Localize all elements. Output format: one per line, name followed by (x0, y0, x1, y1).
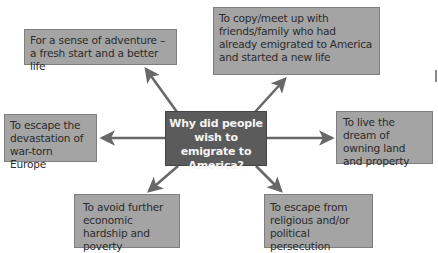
central-question-text: Why did people wish to emigrate to Ameri… (169, 117, 263, 172)
reason-hardship-text: To avoid further economic hardship and p… (83, 201, 163, 252)
reason-adventure: For a sense of adventure – a fresh start… (24, 29, 177, 65)
reason-hardship: To avoid further economic hardship and p… (74, 194, 180, 248)
reason-war: To escape the devastation of war-torn Eu… (4, 114, 97, 162)
reason-family: To copy/meet up with friends/family who … (213, 7, 380, 75)
reason-land-text: To live the dream of owning land and pro… (343, 116, 409, 167)
reason-persecution: To escape from religious and/or politica… (264, 194, 373, 248)
edge-artifact (435, 70, 437, 82)
arrow-to-family (255, 79, 285, 112)
central-question: Why did people wish to emigrate to Ameri… (165, 111, 267, 166)
arrow-to-adventure (146, 69, 177, 112)
arrow-to-persecution (256, 166, 281, 191)
arrow-to-hardship (149, 166, 178, 191)
reason-land: To live the dream of owning land and pro… (336, 111, 433, 164)
reason-persecution-text: To escape from religious and/or politica… (270, 201, 349, 252)
reason-family-text: To copy/meet up with friends/family who … (219, 12, 372, 63)
